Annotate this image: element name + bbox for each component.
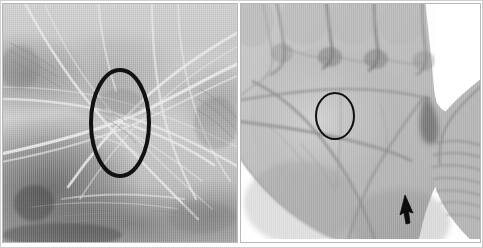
whole-palm-panel[interactable] — [240, 3, 481, 243]
palm-photograph — [240, 3, 481, 243]
magnified-palm-skin-panel[interactable] — [2, 3, 238, 243]
figure-container — [0, 0, 483, 248]
film-grain-overlay — [2, 3, 238, 243]
